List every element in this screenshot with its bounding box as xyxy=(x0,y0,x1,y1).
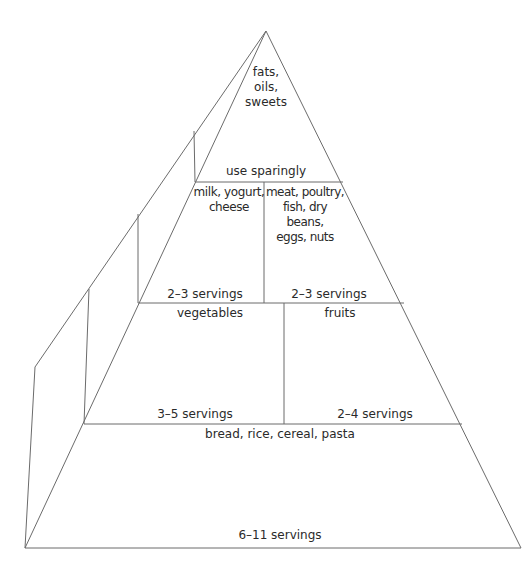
fruits-label: fruits xyxy=(290,306,390,321)
vegetables-servings: 3–5 servings xyxy=(120,407,270,422)
fats-oils-sweets-label: fats, oils, sweets xyxy=(226,65,306,110)
meat-servings: 2–3 servings xyxy=(264,287,394,302)
dairy-servings: 2–3 servings xyxy=(150,287,260,302)
side-tier-3 xyxy=(84,289,89,424)
grains-label: bread, rice, cereal, pasta xyxy=(170,427,390,442)
use-sparingly-label: use sparingly xyxy=(196,164,336,179)
vegetables-label: vegetables xyxy=(150,306,270,321)
side-tier-1 xyxy=(194,131,195,182)
back-vertical-edge xyxy=(25,367,35,548)
meat-label: meat, poultry, fish, dry beans, eggs, nu… xyxy=(264,185,346,245)
dairy-label: milk, yogurt, cheese xyxy=(192,185,266,215)
fruits-servings: 2–4 servings xyxy=(300,407,450,422)
grains-servings: 6–11 servings xyxy=(200,528,360,543)
